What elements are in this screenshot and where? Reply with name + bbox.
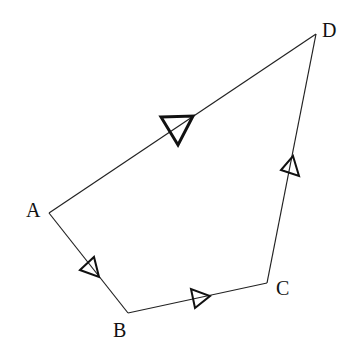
edge-a-d — [49, 34, 316, 213]
quadrilateral-path-figure — [0, 0, 352, 355]
edge-b-c — [128, 283, 267, 313]
diagram-canvas: A B C D — [0, 0, 352, 355]
arrow-b-c-icon — [191, 289, 210, 308]
vertex-label-c: C — [276, 278, 289, 298]
vertex-label-b: B — [113, 320, 126, 340]
arrow-a-b-icon — [80, 257, 99, 277]
vertex-label-a: A — [26, 200, 40, 220]
vertex-label-d: D — [322, 20, 336, 40]
